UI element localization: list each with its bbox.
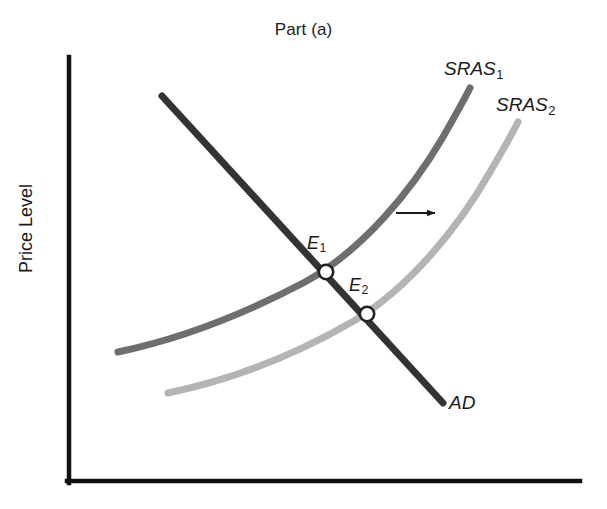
- equilibrium-e1-label: E1: [307, 233, 326, 254]
- sras1-curve: [118, 88, 470, 352]
- sras2-label-subscript: 2: [548, 103, 556, 118]
- equilibrium-e2-label: E2: [349, 275, 368, 296]
- ad-curve: [162, 96, 443, 403]
- economics-figure: Part (a) Price Level SRAS1 SRAS2 AD E1 E…: [0, 0, 607, 509]
- ad-label: AD: [449, 392, 475, 414]
- equilibrium-point-e2-marker: [360, 307, 374, 321]
- e1-label-subscript: 1: [319, 241, 326, 255]
- sras1-label-text: SRAS: [444, 58, 496, 79]
- sras2-label: SRAS2: [496, 94, 555, 116]
- chart-canvas: [0, 0, 607, 509]
- equilibrium-point-e1-marker: [319, 265, 333, 279]
- e2-label-subscript: 2: [361, 283, 368, 297]
- e2-label-text: E: [349, 275, 361, 295]
- sras1-label-subscript: 1: [496, 67, 504, 82]
- sras2-label-text: SRAS: [496, 94, 548, 115]
- e1-label-text: E: [307, 233, 319, 253]
- sras1-label: SRAS1: [444, 58, 503, 80]
